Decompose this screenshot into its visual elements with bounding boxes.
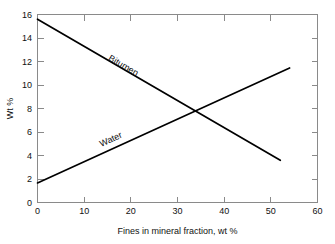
y-tick-label: 6 xyxy=(27,127,32,137)
y-tick-label: 12 xyxy=(22,57,32,67)
x-tick-labels: 0 10 20 30 40 50 60 xyxy=(35,206,323,216)
x-tick-label: 0 xyxy=(35,206,40,216)
x-tick-label: 60 xyxy=(312,206,322,216)
plot-background xyxy=(37,14,318,203)
x-tick-label: 30 xyxy=(172,206,182,216)
y-tick-label: 16 xyxy=(22,10,32,20)
y-tick-label: 0 xyxy=(27,198,32,208)
x-tick-label: 10 xyxy=(79,206,89,216)
y-tick-label: 4 xyxy=(27,151,32,161)
y-tick-label: 8 xyxy=(27,104,32,114)
y-axis-title: Wt % xyxy=(5,98,15,120)
line-chart-svg: 0 10 20 30 40 50 60 0 2 4 6 8 10 12 14 1… xyxy=(0,0,335,244)
y-tick-label: 14 xyxy=(22,33,32,43)
x-tick-label: 40 xyxy=(219,206,229,216)
x-axis-title: Fines in mineral fraction, wt % xyxy=(117,226,237,236)
x-tick-label: 20 xyxy=(126,206,136,216)
chart-figure: 0 10 20 30 40 50 60 0 2 4 6 8 10 12 14 1… xyxy=(0,0,335,244)
x-tick-label: 50 xyxy=(266,206,276,216)
y-tick-label: 10 xyxy=(22,80,32,90)
y-tick-labels: 0 2 4 6 8 10 12 14 16 xyxy=(22,10,32,208)
y-tick-label: 2 xyxy=(27,174,32,184)
